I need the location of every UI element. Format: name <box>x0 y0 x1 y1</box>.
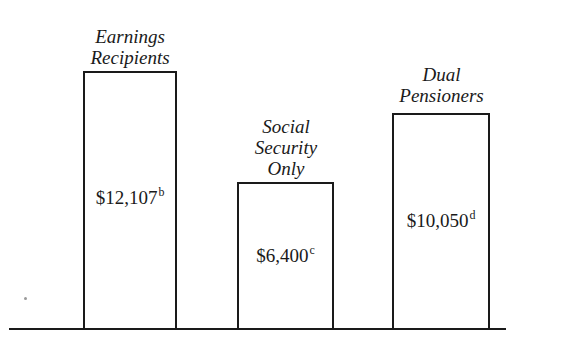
x-axis-baseline <box>9 328 506 330</box>
value-text: $12,107 <box>96 187 158 208</box>
category-label-line: Social <box>238 116 334 137</box>
value-text: $10,050 <box>407 210 469 231</box>
category-label-line: Security <box>238 137 334 158</box>
category-label-line: Dual <box>393 64 490 85</box>
category-label-line: Pensioners <box>393 85 490 106</box>
category-label-line: Earnings <box>84 26 176 47</box>
bar-chart: Earnings Recipients $12,107b Social Secu… <box>0 0 583 348</box>
footnote-marker: b <box>158 185 164 199</box>
value-label-dual-pensioners: $10,050d <box>392 208 490 232</box>
category-label-line: Recipients <box>84 47 176 68</box>
value-label-earnings-recipients: $12,107b <box>83 185 177 209</box>
value-text: $6,400 <box>256 245 308 266</box>
scan-speck <box>24 297 27 300</box>
category-label-line: Only <box>238 158 334 179</box>
category-label-social-security-only: Social Security Only <box>238 116 334 179</box>
footnote-marker: d <box>469 208 475 222</box>
category-label-dual-pensioners: Dual Pensioners <box>393 64 490 106</box>
category-label-earnings-recipients: Earnings Recipients <box>84 26 176 68</box>
value-label-social-security-only: $6,400c <box>237 243 334 267</box>
footnote-marker: c <box>309 243 314 257</box>
